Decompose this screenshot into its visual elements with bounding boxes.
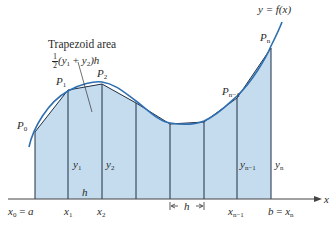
tick-label-xn: b = xn	[268, 206, 294, 219]
x-axis-arrow-icon	[314, 196, 322, 202]
point-label-p2: P2	[97, 68, 107, 81]
diagram-canvas	[0, 0, 333, 226]
ordinate-label-y2: y2	[106, 159, 114, 172]
point-label-pn-1: Pn−1	[222, 86, 240, 99]
point-label-pn: Pn	[260, 32, 270, 45]
trapezoid-formula: 12(y1 + y2)h	[52, 53, 99, 70]
curve-label: y = f(x)	[258, 4, 291, 15]
width-label-h-arrow: h	[184, 201, 190, 212]
shaded-area	[35, 48, 271, 199]
ordinate-label-y1: y1	[73, 159, 81, 172]
trapezoidal-rule-diagram: Trapezoid area 12(y1 + y2)h y = f(x) P0 …	[0, 0, 333, 226]
width-label-h: h	[82, 187, 88, 198]
ordinate-label-yn-1: yn−1	[240, 159, 256, 172]
tick-label-x2: x2	[97, 206, 105, 219]
tick-label-x1: x1	[64, 206, 72, 219]
trapezoid-area-label: Trapezoid area	[48, 39, 116, 51]
point-label-p0: P0	[17, 120, 27, 133]
point-label-p1: P1	[56, 76, 66, 89]
tick-label-xn-1: xn−1	[228, 206, 244, 219]
tick-label-x0: x0 = a	[8, 206, 34, 219]
x-axis-label: x	[324, 194, 329, 205]
ordinate-label-yn: yn	[275, 159, 283, 172]
